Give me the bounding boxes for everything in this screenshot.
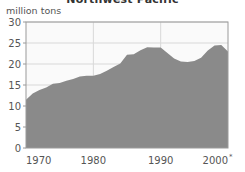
x-tick-label: 1990 — [148, 155, 173, 166]
area-chart-plot: 051015202530 1970198019902000* — [0, 0, 245, 172]
x-tick-label: 1980 — [81, 155, 106, 166]
y-tick-label: 30 — [8, 17, 21, 28]
y-tick-label: 5 — [15, 122, 21, 133]
x-tick-footnote-marker: * — [229, 153, 233, 161]
y-tick-label: 0 — [15, 143, 21, 154]
y-tick-label: 20 — [8, 59, 21, 70]
y-tick-label: 10 — [8, 101, 21, 112]
y-tick-label: 25 — [8, 38, 21, 49]
x-tick-label: 2000 — [203, 155, 228, 166]
x-tick-label: 1970 — [26, 155, 51, 166]
y-axis-tick-labels: 051015202530 — [8, 17, 21, 154]
y-tick-label: 15 — [8, 80, 21, 91]
x-axis-tick-labels: 1970198019902000* — [26, 153, 233, 166]
chart-container: Northwest Pacific million tons 051015202… — [0, 0, 245, 172]
